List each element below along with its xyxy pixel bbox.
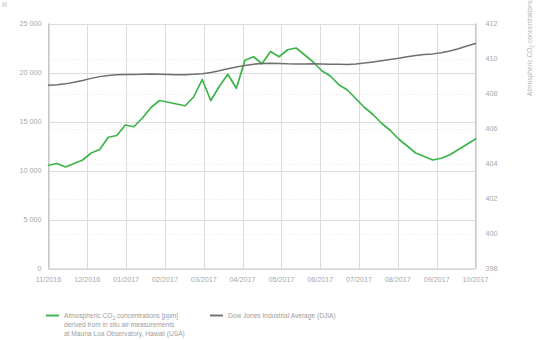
legend-item-djia[interactable]: Dow Jones Industrial Average (DJIA): [210, 312, 336, 320]
corner-artifact: [2, 2, 7, 7]
left-axis-tick-label: 5 000: [24, 215, 42, 224]
x-axis-tick-label: 03/2017: [191, 275, 217, 284]
right-axis-tick-label: 398: [486, 264, 498, 273]
left-axis-tick-label: 15 000: [20, 117, 42, 126]
x-axis-tick-label: 12/2016: [74, 275, 100, 284]
right-axis-tick-label: 402: [486, 194, 498, 203]
x-axis-tick-label: 06/2017: [307, 275, 333, 284]
legend-label-line2: derived from in situ air measurements: [64, 321, 175, 328]
legend-item-co2[interactable]: Atmospheric CO2 concentrations [ppm]deri…: [46, 312, 185, 338]
right-axis-tick-label: 408: [486, 89, 498, 98]
right-axis-tick-label: 406: [486, 124, 498, 133]
x-axis-tick-label: 10/2017: [463, 275, 489, 284]
x-axis-tick-label: 07/2017: [346, 275, 372, 284]
legend-label-line3: at Mauna Loa Observatory, Hawaii (USA): [64, 330, 185, 338]
legend-label-line1: Dow Jones Industrial Average (DJIA): [228, 312, 336, 320]
x-axis-tick-label: 11/2016: [36, 275, 61, 284]
right-axis-tick-label: 404: [486, 159, 498, 168]
left-axis-tick-label: 25 000: [20, 19, 42, 28]
chart-container: 05 00010 00015 00020 00025 000 398400402…: [0, 0, 549, 340]
line-chart: 05 00010 00015 00020 00025 000 398400402…: [0, 0, 549, 340]
x-axis-tick-label: 04/2017: [230, 275, 256, 284]
left-axis-tick-label: 10 000: [20, 166, 42, 175]
left-axis-tick-label: 0: [38, 264, 42, 273]
x-axis-tick-label: 09/2017: [424, 275, 450, 284]
right-axis-tick-label: 412: [486, 19, 498, 28]
chart-background: [0, 0, 549, 340]
right-axis-tick-label: 410: [486, 54, 498, 63]
x-axis-tick-label: 01/2017: [113, 275, 139, 284]
left-axis-tick-label: 20 000: [20, 68, 42, 77]
x-axis-tick-label: 05/2017: [268, 275, 294, 284]
x-axis-tick-label: 02/2017: [152, 275, 178, 284]
x-axis-tick-label: 08/2017: [385, 275, 411, 284]
right-axis-tick-label: 400: [486, 229, 498, 238]
